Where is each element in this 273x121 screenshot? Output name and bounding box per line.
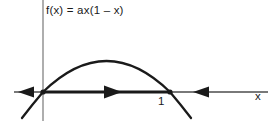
- flow-arrow-left-of-origin: [18, 86, 34, 97]
- x-axis-label: x: [255, 91, 261, 103]
- fixed-point-zero-marker: [40, 89, 45, 94]
- fixed-point-one-marker: [167, 89, 172, 94]
- figure-canvas: f(x) = ax(1 – x) 1 x: [0, 0, 273, 121]
- flow-arrow-right-of-one: [193, 86, 209, 97]
- flow-arrow-between-roots: [104, 86, 122, 99]
- function-expression-label: f(x) = ax(1 – x): [46, 5, 124, 17]
- plot-area: [0, 0, 273, 121]
- tick-label-one: 1: [158, 96, 164, 108]
